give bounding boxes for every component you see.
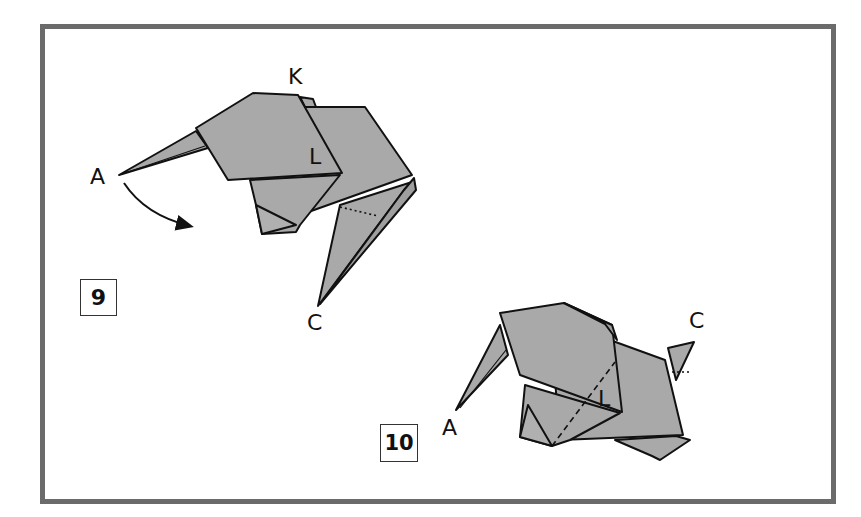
label-l-step10: L <box>598 388 610 410</box>
diagram-canvas: A K L C A L C 9 10 <box>0 0 861 517</box>
label-c-step10: C <box>689 310 704 332</box>
label-c-step9: C <box>307 312 322 334</box>
label-k-step9: K <box>288 66 302 88</box>
label-a-step9: A <box>90 166 105 188</box>
step-9-model <box>119 93 416 306</box>
label-a-step10: A <box>442 417 457 439</box>
step-10-model <box>456 303 694 460</box>
fold-arrow-icon <box>124 183 190 226</box>
label-l-step9: L <box>309 146 321 168</box>
step-number-9: 9 <box>80 279 117 316</box>
step-number-10: 10 <box>380 424 418 462</box>
origami-illustration <box>0 0 861 517</box>
